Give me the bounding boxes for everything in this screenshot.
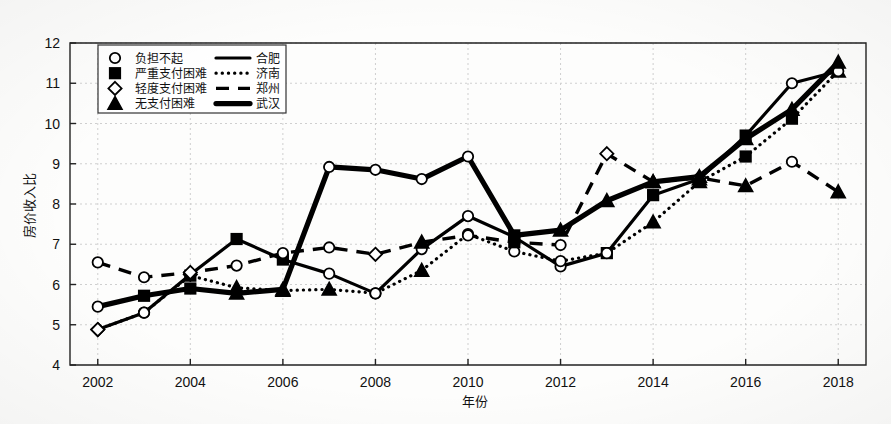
x-tick-label: 2008 — [360, 374, 391, 390]
data-point-合肥 — [463, 211, 473, 221]
data-point-济南 — [602, 248, 612, 258]
data-point-郑州 — [278, 248, 288, 258]
data-point-合肥 — [231, 234, 241, 244]
x-tick-label: 2014 — [638, 374, 669, 390]
x-tick-labels: 200220042006200820102012201420162018 — [82, 374, 854, 390]
data-point-武汉 — [185, 283, 195, 293]
x-tick-label: 2006 — [267, 374, 298, 390]
legend-marker-label[interactable]: 负担不起 — [135, 52, 183, 66]
data-point-武汉 — [463, 151, 473, 161]
legend-city-label[interactable]: 郑州 — [256, 81, 280, 96]
y-tick-label: 4 — [52, 357, 60, 373]
data-point-武汉 — [93, 301, 103, 311]
data-point-合肥 — [324, 268, 334, 278]
data-point-郑州 — [231, 260, 241, 270]
data-point-合肥 — [787, 78, 797, 88]
data-point-济南 — [555, 256, 565, 266]
data-point-济南 — [370, 288, 380, 298]
data-point-郑州 — [324, 242, 334, 252]
x-tick-label: 2016 — [730, 374, 761, 390]
data-point-郑州 — [787, 157, 797, 167]
x-tick-label: 2010 — [452, 374, 483, 390]
y-tick-label: 5 — [52, 317, 60, 333]
legend-city-label[interactable]: 合肥 — [256, 51, 280, 66]
legend-marker-circle-open — [110, 53, 120, 63]
data-point-合肥 — [648, 190, 658, 200]
legend-marker-label[interactable]: 严重支付困难 — [135, 67, 207, 81]
x-tick-label: 2012 — [545, 374, 576, 390]
data-point-郑州 — [463, 230, 473, 240]
y-tick-label: 8 — [52, 196, 60, 212]
y-tick-label: 10 — [44, 116, 60, 132]
data-point-郑州 — [93, 257, 103, 267]
x-tick-label: 2004 — [175, 374, 206, 390]
y-tick-label: 6 — [52, 277, 60, 293]
x-tick-label: 2002 — [82, 374, 113, 390]
data-point-武汉 — [509, 230, 519, 240]
data-point-武汉 — [139, 291, 149, 301]
legend-marker-label[interactable]: 轻度支付困难 — [135, 81, 207, 96]
chart-legend[interactable]: 负担不起严重支付困难轻度支付困难无支付困难合肥济南郑州武汉 — [98, 45, 286, 113]
y-tick-label: 11 — [45, 75, 60, 91]
data-point-武汉 — [324, 162, 334, 172]
chart-container: 456789101112 200220042006200820102012201… — [0, 0, 891, 424]
x-tick-label: 2018 — [823, 374, 854, 390]
legend-marker-square-filled — [110, 68, 120, 78]
line-chart: 456789101112 200220042006200820102012201… — [0, 0, 891, 424]
x-axis-title: 年份 — [462, 394, 488, 409]
legend-city-label[interactable]: 武汉 — [256, 97, 280, 111]
data-point-武汉 — [370, 165, 380, 175]
data-point-武汉 — [417, 174, 427, 184]
y-tick-label: 12 — [44, 35, 60, 51]
data-point-郑州 — [555, 240, 565, 250]
legend-marker-label[interactable]: 无支付困难 — [135, 97, 195, 111]
legend-city-label[interactable]: 济南 — [256, 66, 280, 81]
data-point-济南 — [740, 151, 750, 161]
y-tick-label: 7 — [52, 236, 60, 252]
data-point-济南 — [139, 307, 149, 317]
y-axis-title: 房价收入比 — [22, 173, 37, 238]
y-tick-label: 9 — [52, 156, 60, 172]
data-point-郑州 — [139, 272, 149, 282]
